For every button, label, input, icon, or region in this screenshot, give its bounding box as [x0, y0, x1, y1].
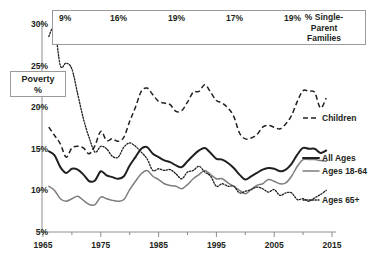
y-tick-label-25: 25%	[8, 61, 48, 71]
y-tick-label-30: 30%	[8, 19, 48, 29]
x-tick-label-2005: 2005	[265, 240, 284, 250]
y-axis-title-line2: %	[11, 85, 65, 96]
legend-label-ages-65: Ages 65+	[322, 195, 360, 205]
y-tick-label-10: 10%	[8, 185, 48, 195]
legend-label-all-ages: All Ages	[322, 153, 356, 163]
x-tick-label-2015: 2015	[323, 240, 342, 250]
y-axis-title-box: Poverty %	[10, 71, 66, 97]
x-tick-label-1965: 1965	[34, 240, 53, 250]
sp-header-line1: % Single-	[287, 12, 361, 23]
y-axis-title-line1: Poverty	[11, 74, 65, 85]
sp-table-header: % Single- Parent Families	[287, 12, 361, 44]
legend-label-ages-18-64: Ages 18-64	[322, 166, 367, 176]
legend-label-children: Children	[322, 113, 356, 123]
y-axis-labels: 5%10%15%20%25%30%	[0, 0, 48, 265]
single-parent-families-table: 9% 16% 19% 17% 19% % Single- Parent Fami…	[52, 10, 366, 45]
x-tick-label-1985: 1985	[149, 240, 168, 250]
series-line-ages-65-	[49, 27, 326, 201]
series-layer	[49, 27, 326, 205]
sp-header-line3: Families	[287, 33, 361, 44]
axis-layer	[38, 20, 336, 237]
y-tick-label-5: 5%	[8, 227, 48, 237]
chart-root: 5%10%15%20%25%30% 1965197519851995200520…	[0, 0, 372, 265]
x-tick-label-1975: 1975	[91, 240, 110, 250]
x-tick-label-1995: 1995	[207, 240, 226, 250]
sp-cell-1: 16%	[110, 13, 127, 23]
sp-cell-3: 17%	[226, 13, 243, 23]
sp-header-line2: Parent	[287, 23, 361, 34]
y-tick-label-20: 20%	[8, 102, 48, 112]
sp-cell-0: 9%	[59, 13, 71, 23]
sp-cell-2: 19%	[168, 13, 185, 23]
series-line-children	[49, 85, 326, 157]
legend-swatches	[303, 118, 319, 200]
y-tick-label-15: 15%	[8, 144, 48, 154]
